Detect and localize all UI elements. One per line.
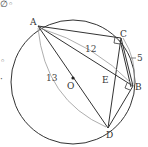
measure-12: 12 bbox=[85, 44, 96, 54]
label-O: O bbox=[67, 81, 74, 91]
geometry-diagram: A C B D O E 12 5 13 ∅◦ ◦ · bbox=[0, 0, 148, 147]
segment-CD bbox=[108, 38, 121, 128]
measure-5: 5 bbox=[137, 53, 143, 63]
fragment-left-2: · bbox=[0, 74, 3, 84]
center-point-O bbox=[71, 76, 74, 79]
fragment-top-left: ∅◦ bbox=[0, 0, 13, 9]
segment-AC bbox=[38, 26, 121, 38]
fragment-left-1: ◦ bbox=[0, 56, 5, 66]
label-E: E bbox=[102, 75, 109, 85]
measure-13: 13 bbox=[46, 73, 58, 83]
label-A: A bbox=[29, 17, 37, 27]
label-B: B bbox=[135, 82, 142, 92]
label-D: D bbox=[106, 130, 113, 140]
segment-CB-inner bbox=[120, 40, 131, 87]
label-C: C bbox=[120, 29, 127, 39]
